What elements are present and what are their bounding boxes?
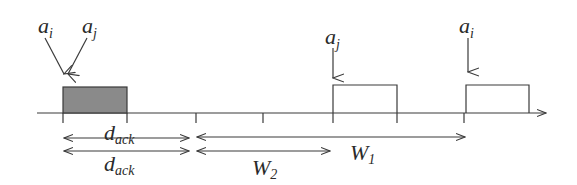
label-d-ack-2: dack (104, 151, 135, 178)
label-ai: ai (38, 13, 53, 41)
arrival-arrow-aj (68, 38, 87, 74)
label-aj-2: aj (325, 24, 340, 52)
ai-box (466, 85, 529, 113)
label-w2: W2 (252, 155, 277, 182)
label-d-ack-1: dack (104, 120, 135, 147)
label-w1: W1 (350, 140, 375, 167)
aj-box (333, 85, 397, 113)
arrival-arrow-ai (45, 38, 64, 74)
timeline-diagram: ai aj aj ai dack dack W2 W1 (0, 0, 577, 185)
ack-box (63, 87, 127, 113)
label-aj: aj (82, 13, 97, 41)
label-ai-3: ai (459, 13, 474, 41)
axis-ticks (63, 113, 464, 123)
